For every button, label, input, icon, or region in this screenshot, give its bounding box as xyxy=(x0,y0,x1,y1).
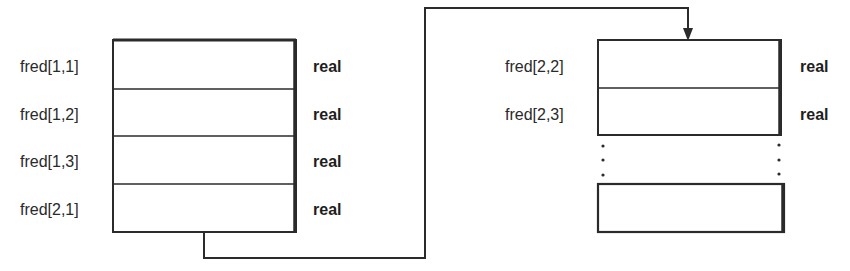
memory-layout-diagram: fred[1,1] fred[1,2] fred[1,3] fred[2,1] … xyxy=(0,0,850,271)
cell-type: real xyxy=(313,106,341,123)
cell-type: real xyxy=(800,106,828,123)
cell-label: fred[1,1] xyxy=(20,58,79,75)
ellipsis-dots xyxy=(601,143,780,176)
cell-type: real xyxy=(800,58,828,75)
cell-label: fred[1,2] xyxy=(20,106,79,123)
cell-label: fred[2,3] xyxy=(505,106,564,123)
connector-line xyxy=(204,8,693,258)
cell-label: fred[1,3] xyxy=(20,153,79,170)
trailing-cell xyxy=(598,184,784,232)
cell-label: fred[2,1] xyxy=(20,201,79,218)
right-memory-block xyxy=(598,40,781,135)
left-memory-block xyxy=(113,40,296,232)
cell-type: real xyxy=(313,58,341,75)
cell-label: fred[2,2] xyxy=(505,58,564,75)
cell-type: real xyxy=(313,153,341,170)
cell-type: real xyxy=(313,201,341,218)
